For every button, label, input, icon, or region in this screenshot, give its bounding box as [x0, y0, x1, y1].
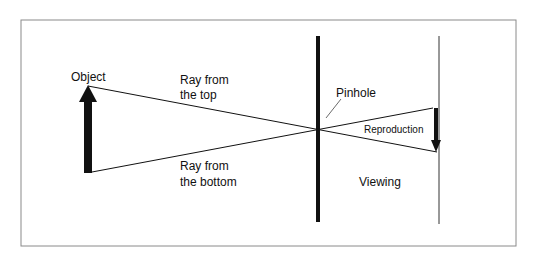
ray-bottom-label-line1: Ray from [180, 159, 229, 173]
object-label: Object [71, 70, 106, 84]
pinhole-diagram: Object Ray from the top Ray from the bot… [0, 0, 544, 257]
ray-from-bottom [92, 108, 433, 172]
ray-top-label-line1: Ray from [180, 73, 229, 87]
ray-bottom-label-line2: the bottom [180, 175, 237, 189]
pinhole-leader-line [326, 99, 341, 118]
object-arrow-icon [79, 85, 97, 173]
viewing-label: Viewing [359, 175, 401, 189]
ray-from-top [88, 86, 437, 152]
diagram-frame [21, 20, 516, 246]
pinhole-wall [316, 36, 320, 222]
pinhole-label: Pinhole [336, 86, 376, 100]
ray-top-label-line2: the top [180, 88, 217, 102]
reproduction-label: Reproduction [364, 124, 423, 135]
